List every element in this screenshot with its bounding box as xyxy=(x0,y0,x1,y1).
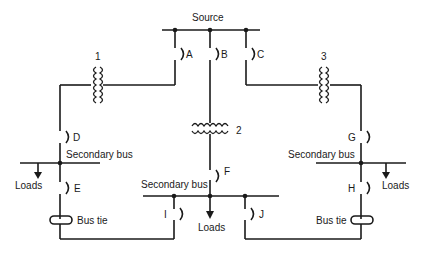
load-arrow-icon xyxy=(34,172,42,179)
bus-tie-left: Bus tie xyxy=(50,215,174,239)
svg-text:Bus tie: Bus tie xyxy=(316,215,347,226)
svg-text:J: J xyxy=(259,209,264,220)
one-line-diagram: Source A B C 1 3 xyxy=(0,0,421,254)
svg-text:Bus tie: Bus tie xyxy=(77,215,108,226)
source-label: Source xyxy=(192,12,224,23)
breaker-c: C xyxy=(246,30,264,85)
svg-text:I: I xyxy=(164,209,167,220)
svg-text:Loads: Loads xyxy=(15,180,42,191)
bus-tie-right: Bus tie xyxy=(316,215,373,239)
svg-text:E: E xyxy=(74,183,81,194)
svg-text:2: 2 xyxy=(236,125,242,136)
svg-text:F: F xyxy=(224,166,230,177)
svg-text:Secondary bus: Secondary bus xyxy=(141,179,208,190)
breaker-e: E xyxy=(60,163,81,219)
svg-text:3: 3 xyxy=(321,51,327,62)
svg-text:B: B xyxy=(221,49,228,60)
breaker-a: A xyxy=(175,30,193,85)
breaker-b: B xyxy=(210,30,228,123)
svg-text:D: D xyxy=(73,132,80,143)
breaker-h: H xyxy=(348,163,370,219)
load-arrow-icon xyxy=(382,172,390,179)
svg-text:C: C xyxy=(257,49,264,60)
svg-text:Loads: Loads xyxy=(382,180,409,191)
svg-text:G: G xyxy=(348,132,356,143)
svg-text:Loads: Loads xyxy=(198,222,225,233)
transformer-2: 2 xyxy=(192,124,242,171)
svg-text:Secondary bus: Secondary bus xyxy=(288,149,355,160)
svg-text:A: A xyxy=(186,49,193,60)
load-arrow-icon xyxy=(206,211,214,219)
transformer-1: 1 xyxy=(60,51,175,103)
svg-text:H: H xyxy=(348,183,355,194)
breaker-i: I xyxy=(164,196,183,239)
breaker-f: F xyxy=(210,166,230,196)
source-bus: Source xyxy=(162,12,260,32)
svg-text:1: 1 xyxy=(95,51,101,62)
bus-tie-icon xyxy=(50,216,72,224)
bus-tie-icon xyxy=(351,216,373,224)
svg-text:Secondary bus: Secondary bus xyxy=(66,149,133,160)
